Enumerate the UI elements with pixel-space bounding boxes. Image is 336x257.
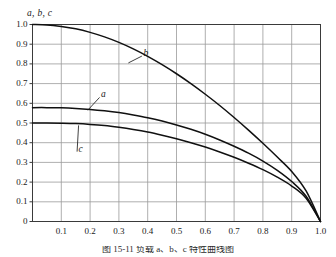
x-tick-label: 0.3	[106, 227, 132, 236]
x-tick-label: 0.7	[221, 227, 247, 236]
curve-label-a: a	[101, 90, 106, 100]
y-tick-label: 0.4	[4, 138, 28, 147]
figure-caption: 图 15-11 负载 a、b、c 特性曲线图	[0, 246, 336, 257]
curve-label-c: c	[79, 145, 83, 155]
x-tick-label: 1.0	[308, 227, 334, 236]
y-tick-label: 0.9	[4, 40, 28, 49]
y-tick-label: 0.8	[4, 59, 28, 68]
x-tick-label: 0.9	[279, 227, 305, 236]
curve-label-leaders	[77, 56, 142, 152]
x-tick-label: 0.4	[135, 227, 161, 236]
y-tick-label: 0.1	[4, 197, 28, 206]
y-tick-label: 1.0	[4, 20, 28, 29]
x-tick-label: 0.5	[164, 227, 190, 236]
x-tick-label: 0.1	[48, 227, 74, 236]
curve-label-b: b	[143, 49, 148, 59]
y-tick-label: 0.2	[4, 178, 28, 187]
x-tick-label: 0.8	[250, 227, 276, 236]
plot-canvas	[0, 0, 336, 257]
y-axis-title: a, b, c	[27, 9, 52, 19]
y-tick-label: 0.7	[4, 79, 28, 88]
x-tick-label: 0.6	[192, 227, 218, 236]
y-tick-label: 0.6	[4, 99, 28, 108]
chart-figure: a, b, c 00.10.20.30.40.50.60.70.80.91.0 …	[0, 0, 336, 257]
figure-caption-text: 图 15-11 负载 a、b、c 特性曲线图	[0, 246, 336, 254]
y-tick-label: 0.5	[4, 119, 28, 128]
y-tick-label: 0.3	[4, 158, 28, 167]
y-tick-label: 0	[4, 217, 28, 226]
x-tick-label: 0.2	[77, 227, 103, 236]
